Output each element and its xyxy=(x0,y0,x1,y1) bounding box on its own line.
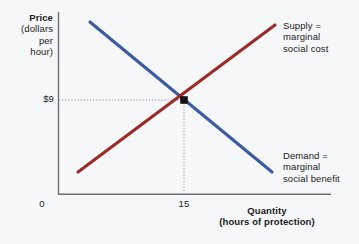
x-axis-title: Quantity (hours of protection) xyxy=(178,205,356,228)
supply-curve-label: Supply = marginal social cost xyxy=(283,20,359,54)
x-axis-tick-label-15: 15 xyxy=(170,198,198,209)
y-axis-tick-label-9: $9 xyxy=(22,93,54,104)
y-axis-title-strong: Price xyxy=(29,12,53,23)
supply-demand-chart: Price(dollars per hour) Quantity (hours … xyxy=(0,0,359,244)
demand-curve-label: Demand = marginal social benefit xyxy=(283,150,359,184)
y-axis-title: Price(dollars per hour) xyxy=(0,12,53,57)
origin-label: 0 xyxy=(32,198,52,209)
y-axis-title-rest: (dollars per hour) xyxy=(21,23,53,57)
equilibrium-point-marker xyxy=(180,96,188,104)
